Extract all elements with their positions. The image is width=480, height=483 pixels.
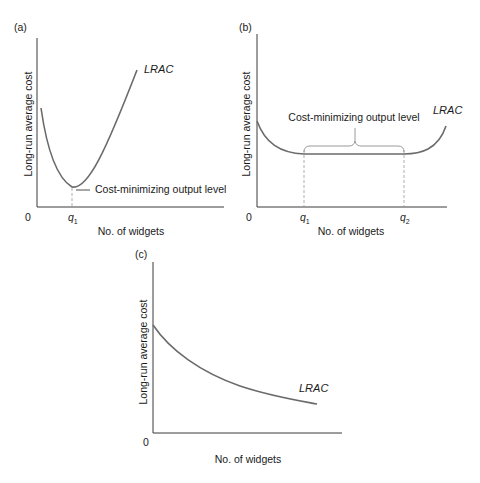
panel-b-origin: 0 [246,211,252,223]
panel-a-lrac-curve [41,70,137,187]
panel-b-lrac-label: LRAC [433,104,462,116]
panel-c-origin: 0 [143,436,149,448]
panel-c-y-label: Long-run average cost [137,299,149,404]
panel-b-q1-label: q1 [300,211,310,225]
panel-b-lrac-curve [257,121,446,154]
panel-a-x-label: No. of widgets [98,225,165,237]
figure-canvas: (a) Long-run average cost 0 No. of widge… [0,0,480,483]
panel-a-y-label: Long-run average cost [22,71,34,176]
panel-a-q1-label: q1 [68,211,78,225]
panel-b-y-label: Long-run average cost [240,71,252,176]
panel-b-brace [304,141,404,152]
panel-c-x-label: No. of widgets [215,453,282,465]
panel-b-x-label: No. of widgets [318,225,385,237]
panel-c-lrac-label: LRAC [299,382,328,394]
panel-b-q2-label: q2 [400,211,410,225]
panel-b: (b) Long-run average cost 0 No. of widge… [239,21,462,237]
panel-a: (a) Long-run average cost 0 No. of widge… [14,21,226,237]
panel-c-tag: (c) [135,248,147,260]
panel-c: (c) Long-run average cost 0 No. of widge… [135,248,342,465]
panel-c-lrac-curve [153,325,317,404]
panel-a-tag: (a) [14,21,27,33]
panel-b-annotation: Cost-minimizing output level [288,111,419,123]
panel-a-lrac-label: LRAC [144,63,173,75]
panel-a-origin: 0 [25,211,31,223]
panel-b-tag: (b) [239,21,252,33]
panel-a-annotation: Cost-minimizing output level [95,183,226,195]
